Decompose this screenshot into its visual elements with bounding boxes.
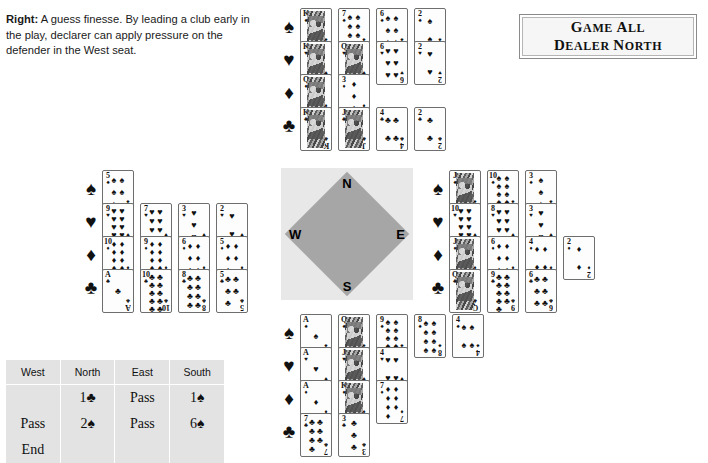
playing-card: 5♣5♣♣♣♣♣♣ xyxy=(216,269,248,313)
playing-card: 6♥6♥♥♥♥♥♥♥ xyxy=(376,41,408,85)
playing-card: 3♣3♣♣♣♣ xyxy=(338,413,370,457)
bid-cell xyxy=(170,437,224,463)
bid-cell xyxy=(60,437,115,463)
card-pips: ♥♥♥♥♥♥ xyxy=(384,45,400,81)
court-card-illustration xyxy=(456,272,474,310)
compass-south-label: S xyxy=(343,279,352,294)
spade-suit-icon: ♠ xyxy=(278,10,300,43)
west-hand: 5♠5♠♠♠♠♠♠9♥9♥♥♥♥♥♥♥♥♥♥7♥7♥♥♥♥♥♥♥♥3♥3♥♥♥♥… xyxy=(102,170,282,320)
diamond-suit-icon: ♦ xyxy=(80,238,102,271)
bid-cell: 1♠ xyxy=(170,385,224,412)
compass-east-label: E xyxy=(396,227,405,242)
card-pips: ♣♣♣♣ xyxy=(384,111,400,147)
card-pips: ♣♣♣♣♣♣♣♣ xyxy=(186,273,202,309)
compass-rose: N S W E xyxy=(281,168,413,300)
compass-west-label: W xyxy=(289,227,301,242)
bidding-header-east: East xyxy=(115,360,170,385)
playing-card: 7♦7♦♦♦♦♦♦♦♦ xyxy=(376,380,408,424)
card-pips: ♣♣♣♣♣♣♣♣♣ xyxy=(495,273,511,309)
card-pips: ♣ xyxy=(110,273,126,309)
south-suit-symbol-column: ♠♥♦♣ xyxy=(278,316,300,448)
bid-cell xyxy=(6,385,60,412)
card-pips: ♦♦ xyxy=(571,240,587,276)
north-suit-symbol-column: ♠♥♦♣ xyxy=(278,10,300,142)
vulnerability-label: GAME ALL xyxy=(571,19,645,37)
playing-card: 9♣9♣♣♣♣♣♣♣♣♣♣ xyxy=(487,269,519,313)
table-row: 1♣ Pass 1♠ xyxy=(6,385,224,412)
bidding-header-north: North xyxy=(60,360,115,385)
vulnerability-dealer-box: GAME ALL DEALER NORTH xyxy=(519,14,697,59)
court-card-illustration xyxy=(307,110,325,148)
dealer-label: DEALER NORTH xyxy=(554,37,662,55)
playing-card: 7♣7♣♣♣♣♣♣♣♣ xyxy=(300,413,332,457)
bid-cell: Pass xyxy=(115,385,170,412)
playing-card: 6♣6♣♣♣♣♣♣♣ xyxy=(525,269,557,313)
heart-suit-icon: ♥ xyxy=(80,205,102,238)
bid-cell: 1♣ xyxy=(60,385,115,412)
table-row: Pass 2♠ Pass 6♠ xyxy=(6,411,224,437)
playing-card: 8♣8♣♣♣♣♣♣♣♣♣ xyxy=(178,269,210,313)
card-pips: ♣♣♣♣♣♣♣♣♣♣ xyxy=(148,273,164,309)
playing-card: J♣J♣ xyxy=(338,107,370,151)
bidding-header-row: West North East South xyxy=(6,360,224,385)
caption-lead: Right: xyxy=(6,13,38,25)
south-hand: A♠A♠♠Q♠Q♠9♠9♠♠♠♠♠♠♠♠♠♠8♠8♠♠♠♠♠♠♠♠♠4♠4♠♠♠… xyxy=(300,314,500,459)
table-row: End xyxy=(6,437,224,463)
playing-card: Q♣Q♣ xyxy=(449,269,481,313)
bid-cell: 2♠ xyxy=(60,411,115,437)
west-suit-symbol-column: ♠♥♦♣ xyxy=(80,172,102,304)
diamond-suit-icon: ♦ xyxy=(427,238,449,271)
card-pips: ♥♥ xyxy=(422,45,438,81)
card-pips: ♣♣♣♣♣♣♣ xyxy=(308,417,324,453)
heart-suit-icon: ♥ xyxy=(427,205,449,238)
caption-text: A guess finesse. By leading a club early… xyxy=(6,13,250,56)
bidding-header-west: West xyxy=(6,360,60,385)
diamond-suit-icon: ♦ xyxy=(278,382,300,415)
spade-suit-icon: ♠ xyxy=(278,316,300,349)
card-pips: ♣♣♣ xyxy=(346,417,362,453)
bid-cell: Pass xyxy=(115,411,170,437)
playing-card: 4♣4♣♣♣♣♣ xyxy=(376,107,408,151)
club-suit-icon: ♣ xyxy=(427,271,449,304)
playing-card: 10♣10♣♣♣♣♣♣♣♣♣♣♣ xyxy=(140,269,172,313)
playing-card: 2♣2♣♣♣ xyxy=(414,107,446,151)
playing-card: 2♦2♦♦♦ xyxy=(563,236,595,280)
card-pips: ♠♠♠♠ xyxy=(460,318,476,354)
diamond-suit-icon: ♦ xyxy=(278,76,300,109)
bid-cell: End xyxy=(6,437,60,463)
playing-card: K♣K♣ xyxy=(300,107,332,151)
card-pips: ♦♦♦♦♦♦♦ xyxy=(384,384,400,420)
playing-card: 8♠8♠♠♠♠♠♠♠♠♠ xyxy=(414,314,446,358)
court-card-illustration xyxy=(345,110,363,148)
club-suit-icon: ♣ xyxy=(80,271,102,304)
playing-card: 4♠4♠♠♠♠♠ xyxy=(452,314,484,358)
playing-card: A♣A♣♣ xyxy=(102,269,134,313)
club-suit-icon: ♣ xyxy=(278,415,300,448)
card-pips: ♣♣ xyxy=(422,111,438,147)
card-pips: ♠♠♠♠♠♠♠♠ xyxy=(422,318,438,354)
card-pips: ♣♣♣♣♣ xyxy=(224,273,240,309)
heart-suit-icon: ♥ xyxy=(278,43,300,76)
heart-suit-icon: ♥ xyxy=(278,349,300,382)
bidding-table: West North East South 1♣ Pass 1♠ Pass 2♠… xyxy=(6,360,224,452)
north-hand: K♠K♠7♠7♠♠♠♠♠♠♠♠6♠6♠♠♠♠♠♠♠2♠2♠♠♠K♥K♥Q♥Q♥6… xyxy=(300,8,480,158)
figure-caption: Right: A guess finesse. By leading a clu… xyxy=(6,12,258,59)
compass-north-label: N xyxy=(342,176,351,191)
east-hand: J♠J♠10♠10♠♠♠♠♠♠♠♠♠♠♠3♠3♠♠♠♠10♥10♥♥♥♥♥♥♥♥… xyxy=(449,170,649,320)
playing-card: 2♥2♥♥♥ xyxy=(414,41,446,85)
card-pips: ♣♣♣♣♣♣ xyxy=(533,273,549,309)
bid-cell: Pass xyxy=(6,411,60,437)
east-suit-symbol-column: ♠♥♦♣ xyxy=(427,172,449,304)
club-suit-icon: ♣ xyxy=(278,109,300,142)
bidding-header-south: South xyxy=(170,360,224,385)
spade-suit-icon: ♠ xyxy=(80,172,102,205)
bid-cell xyxy=(115,437,170,463)
spade-suit-icon: ♠ xyxy=(427,172,449,205)
bid-cell: 6♠ xyxy=(170,411,224,437)
